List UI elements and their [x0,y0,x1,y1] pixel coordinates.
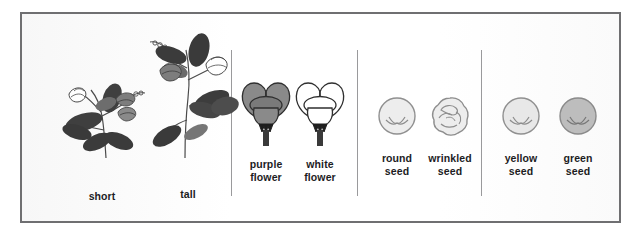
trait-label-white-flower: white flower [290,158,350,183]
purple-flower-icon [236,76,296,148]
pea-trait-figure: short [0,0,640,237]
trait-item-white-flower[interactable]: white flower [290,76,350,183]
tall-pea-plant-icon [130,24,246,160]
trait-label-yellow-seed: yellow seed [490,152,552,177]
divider-flower-seedshape [357,50,358,196]
trait-item-tall[interactable]: tall [130,24,246,201]
trait-label-wrinkled-seed: wrinkled seed [417,152,483,177]
trait-label-tall: tall [130,188,246,201]
trait-label-green-seed: green seed [547,152,609,177]
trait-item-green-seed[interactable]: green seed [547,94,609,177]
trait-label-purple-flower: purple flower [236,158,296,183]
trait-item-yellow-seed[interactable]: yellow seed [490,94,552,177]
yellow-seed-icon [490,94,552,140]
green-seed-icon [547,94,609,140]
trait-item-wrinkled-seed[interactable]: wrinkled seed [417,94,483,177]
figure-panel: short [20,12,621,223]
wrinkled-seed-icon [417,94,483,140]
trait-item-purple-flower[interactable]: purple flower [236,76,296,183]
white-flower-icon [290,76,350,148]
